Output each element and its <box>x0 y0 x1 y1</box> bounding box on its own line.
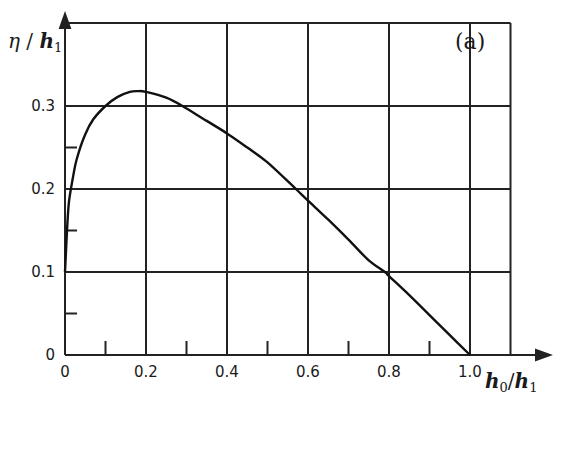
y-tick-labels: 00.10.20.3 <box>31 97 55 364</box>
x-tick-label: 0 <box>60 363 70 381</box>
x-tick-labels: 00.20.40.60.81.0 <box>60 363 482 381</box>
axes <box>60 14 550 360</box>
y-axis-label: η / h1 <box>8 29 62 55</box>
minor-ticks <box>65 148 430 356</box>
x-axis-label: h0/h1 <box>485 369 537 395</box>
data-curve <box>65 91 470 355</box>
chart: 00.20.40.60.81.0 00.10.20.3 η / h1 h0/h1… <box>0 0 565 454</box>
y-tick-label: 0 <box>45 346 55 364</box>
x-tick-label: 1.0 <box>458 363 482 381</box>
x-tick-label: 0.2 <box>134 363 158 381</box>
x-tick-label: 0.6 <box>296 363 320 381</box>
y-axis-arrow-icon <box>60 14 70 28</box>
panel-label: (a) <box>455 29 485 54</box>
y-tick-label: 0.3 <box>31 97 55 115</box>
gridlines <box>65 23 511 355</box>
x-axis-arrow-icon <box>536 350 550 360</box>
x-tick-label: 0.4 <box>215 363 239 381</box>
y-tick-label: 0.1 <box>31 263 55 281</box>
y-tick-label: 0.2 <box>31 180 55 198</box>
x-tick-label: 0.8 <box>377 363 401 381</box>
